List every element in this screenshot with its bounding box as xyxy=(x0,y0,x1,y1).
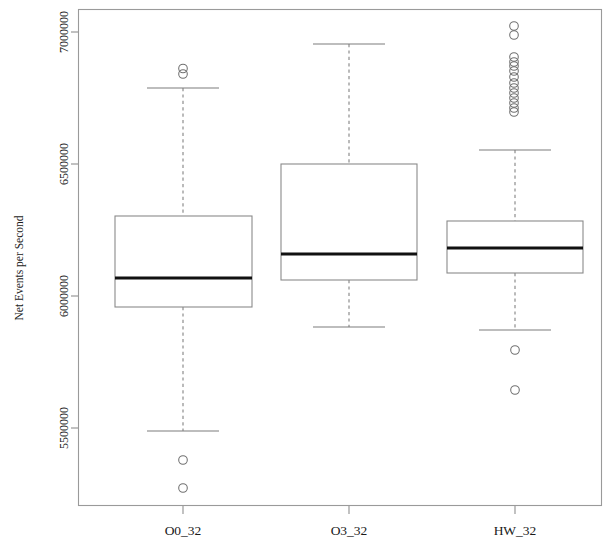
outlier-point xyxy=(511,346,520,355)
y-tick-label-3: 7000000 xyxy=(57,11,71,53)
y-axis-ticks xyxy=(71,32,78,428)
box-group-hw-32 xyxy=(447,22,583,395)
x-axis-labels: O0_32 O3_32 HW_32 xyxy=(165,523,537,538)
outlier-point xyxy=(510,31,519,40)
x-label-o0-32: O0_32 xyxy=(165,523,202,538)
x-label-o3-32: O3_32 xyxy=(331,523,368,538)
outlier-point xyxy=(510,79,519,88)
y-axis-title: Net Events per Second xyxy=(13,215,26,320)
boxplot-chart: 5500000 6000000 6500000 7000000 Net Even… xyxy=(0,0,610,548)
outlier-point xyxy=(510,53,519,62)
outlier-point xyxy=(510,84,519,93)
outlier-point xyxy=(510,89,519,98)
outlier-point xyxy=(510,99,519,108)
outlier-point xyxy=(179,484,188,493)
x-label-hw-32: HW_32 xyxy=(494,523,537,538)
outlier-point xyxy=(510,22,519,31)
y-tick-label-1: 6000000 xyxy=(57,275,71,317)
outlier-point xyxy=(510,94,519,103)
y-tick-label-0: 5500000 xyxy=(57,407,71,449)
outlier-point xyxy=(179,456,188,465)
plot-canvas: 5500000 6000000 6500000 7000000 Net Even… xyxy=(0,0,610,548)
box-group-o0-32 xyxy=(115,64,252,492)
box-group-o3-32 xyxy=(281,44,417,327)
y-axis-tick-labels: 5500000 6000000 6500000 7000000 xyxy=(57,11,71,449)
outlier-point xyxy=(511,386,520,395)
box-o0-32 xyxy=(115,216,252,307)
box-o3-32 xyxy=(281,164,417,280)
x-axis-ticks xyxy=(183,506,515,514)
outlier-point xyxy=(179,70,188,79)
y-tick-label-2: 6500000 xyxy=(57,143,71,185)
